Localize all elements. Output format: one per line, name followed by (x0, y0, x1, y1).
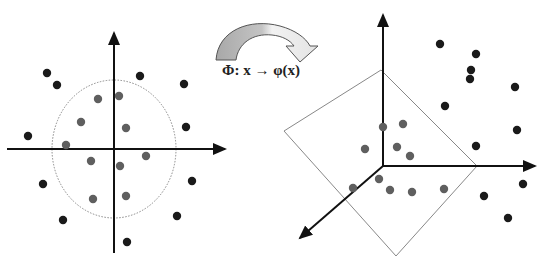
data-point-outer (173, 212, 181, 220)
data-point-outer (466, 75, 474, 83)
data-point-outer (182, 123, 190, 131)
separating-hyperplane (284, 70, 477, 256)
data-point-outer (519, 180, 527, 188)
data-point-inner (361, 145, 369, 153)
data-point-inner (122, 124, 130, 132)
data-point-inner (386, 186, 394, 194)
data-point-outer (511, 83, 519, 91)
data-point-inner (62, 141, 70, 149)
mapping-label: Φ: x → φ(x) (222, 62, 300, 79)
data-point-inner (122, 192, 130, 200)
data-point-outer (441, 102, 449, 110)
data-point-inner (89, 195, 97, 203)
data-point-inner (94, 95, 102, 103)
data-point-inner (375, 175, 383, 183)
inner-class-points-mapped (349, 120, 448, 196)
feature-space-plot (284, 15, 535, 256)
data-point-outer (504, 214, 512, 222)
outer-class-points (24, 69, 196, 246)
data-point-outer (59, 216, 67, 224)
data-point-inner (399, 120, 407, 128)
data-point-outer (43, 69, 51, 77)
inner-class-points (62, 92, 150, 203)
kernel-mapping-diagram (0, 0, 547, 265)
outer-class-points-mapped (436, 40, 527, 222)
data-point-inner (349, 184, 357, 192)
data-point-inner (142, 152, 150, 160)
data-point-outer (472, 50, 480, 58)
data-point-outer (467, 66, 475, 74)
data-point-outer (188, 177, 196, 185)
data-point-outer (472, 142, 480, 150)
input-space-plot (7, 33, 225, 253)
data-point-inner (393, 143, 401, 151)
data-point-outer (436, 40, 444, 48)
data-point-inner (116, 162, 124, 170)
data-point-inner (406, 152, 414, 160)
data-point-outer (180, 80, 188, 88)
data-point-inner (87, 157, 95, 165)
data-point-inner (77, 118, 85, 126)
data-point-inner (115, 92, 123, 100)
data-point-outer (513, 126, 521, 134)
data-point-outer (123, 238, 131, 246)
data-point-outer (53, 81, 61, 89)
data-point-outer (39, 180, 47, 188)
data-point-inner (440, 185, 448, 193)
data-point-inner (379, 123, 387, 131)
data-point-outer (136, 72, 144, 80)
data-point-outer (480, 192, 488, 200)
data-point-outer (24, 132, 32, 140)
data-point-inner (408, 188, 416, 196)
curved-mapping-arrow-icon (216, 24, 318, 62)
